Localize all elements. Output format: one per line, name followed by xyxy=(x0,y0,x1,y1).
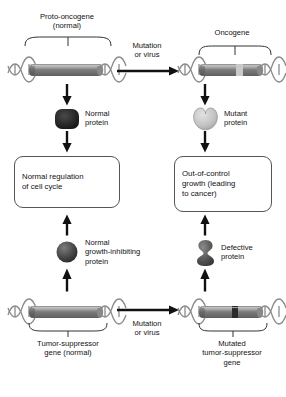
mutant-protein-label-line1: Mutant xyxy=(224,109,282,118)
top-transition-arrow xyxy=(117,66,179,76)
tumor-suppressor-label: Tumor-suppressor gene (normal) xyxy=(12,339,124,358)
normal-protein-shape xyxy=(54,107,80,131)
proto-oncogene-label: Proto-oncogene (normal) xyxy=(14,12,120,31)
growth-inhibiting-label-line1: Normal xyxy=(85,238,175,247)
defective-protein-label-line1: Defective xyxy=(221,243,283,252)
normal-protein-label-line1: Normal xyxy=(85,109,145,118)
left-arrow-inhibitor-to-outcome xyxy=(62,214,72,236)
normal-regulation-box: Normal regulation of cell cycle xyxy=(14,156,120,208)
mutated-tumor-suppressor-dna xyxy=(178,297,286,323)
left-arrow-protein-to-outcome xyxy=(62,131,72,153)
mutated-label-line2: tumor-suppressor xyxy=(180,348,284,357)
growth-inhibiting-label-line2: growth-inhibiting xyxy=(85,247,175,256)
mutated-tumor-suppressor-label: Mutated tumor-suppressor gene xyxy=(180,339,284,367)
mutated-label-line1: Mutated xyxy=(180,339,284,348)
mutant-protein-label: Mutant protein xyxy=(224,109,282,128)
top-transition-line2: or virus xyxy=(116,50,178,59)
tumor-suppressor-brace xyxy=(28,323,108,337)
out-of-control-line1: Out-of-control xyxy=(182,169,235,179)
oncogene-label: Oncogene xyxy=(192,28,272,37)
top-transition-label: Mutation or virus xyxy=(116,41,178,60)
normal-regulation-line1: Normal regulation xyxy=(22,172,84,182)
mutant-protein-label-line2: protein xyxy=(224,118,282,127)
defective-protein-label: Defective protein xyxy=(221,243,283,262)
out-of-control-line2: growth (leading xyxy=(182,179,235,189)
tumor-suppressor-dna xyxy=(8,297,126,323)
proto-oncogene-dna xyxy=(8,55,126,81)
growth-inhibiting-label-line3: protein xyxy=(85,257,175,266)
out-of-control-line3: to cancer) xyxy=(182,189,235,199)
right-arrow-defective-to-outcome xyxy=(200,214,210,236)
right-arrow-protein-to-outcome xyxy=(200,131,210,153)
normal-protein-label: Normal protein xyxy=(85,109,145,128)
growth-inhibiting-protein-shape xyxy=(55,240,79,264)
normal-protein-label-line2: protein xyxy=(85,118,145,127)
mutant-protein-shape xyxy=(192,106,219,131)
tumor-suppressor-label-line2: gene (normal) xyxy=(12,348,124,357)
out-of-control-growth-box: Out-of-control growth (leading to cancer… xyxy=(174,156,272,212)
normal-regulation-text: Normal regulation of cell cycle xyxy=(22,172,84,192)
left-arrow-gene-to-inhibitor xyxy=(62,268,72,292)
proto-oncogene-label-line1: Proto-oncogene xyxy=(14,12,120,21)
oncogene-label-text: Oncogene xyxy=(192,28,272,37)
tumor-suppressor-label-line1: Tumor-suppressor xyxy=(12,339,124,348)
top-transition-line1: Mutation xyxy=(116,41,178,50)
oncogene-brace xyxy=(198,40,272,56)
bottom-transition-label: Mutation or virus xyxy=(116,319,178,338)
bottom-transition-arrow xyxy=(117,305,179,315)
out-of-control-growth-text: Out-of-control growth (leading to cancer… xyxy=(182,169,235,200)
defective-protein-label-line2: protein xyxy=(221,252,283,261)
proto-oncogene-label-line2: (normal) xyxy=(14,21,120,30)
defective-protein-shape xyxy=(195,239,216,267)
bottom-transition-line1: Mutation xyxy=(116,319,178,328)
normal-regulation-line2: of cell cycle xyxy=(22,182,84,192)
mutated-tumor-suppressor-brace xyxy=(198,323,268,337)
bottom-transition-line2: or virus xyxy=(116,328,178,337)
left-arrow-gene-to-protein xyxy=(62,84,72,106)
mutated-label-line3: gene xyxy=(180,358,284,367)
right-arrow-gene-to-protein xyxy=(200,84,210,106)
oncogene-dna xyxy=(178,55,286,81)
right-arrow-gene-to-defective xyxy=(200,268,210,292)
growth-inhibiting-protein-label: Normal growth-inhibiting protein xyxy=(85,238,175,266)
proto-oncogene-brace xyxy=(24,31,112,47)
